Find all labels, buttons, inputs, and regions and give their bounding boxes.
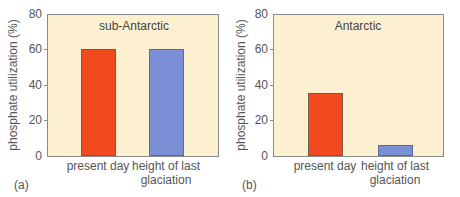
panel-letter: (a) [14, 178, 29, 192]
y-tick-label-40: 40 [246, 79, 268, 91]
chart-panel-a: phosphate utilization (%) 80 60 40 20 0 … [0, 0, 230, 197]
chart-title: Antarctic [298, 19, 418, 33]
panel-letter: (b) [242, 178, 257, 192]
plot-area: sub-Antarctic [47, 14, 219, 157]
plot-area: Antarctic [273, 14, 444, 157]
y-tick-label-20: 20 [20, 114, 42, 126]
x-category-label-line1: height of last [350, 159, 440, 173]
y-tick-label-20: 20 [246, 114, 268, 126]
y-tick-label-80: 80 [246, 8, 268, 20]
x-category-label-line1: height of last [121, 159, 211, 173]
bar-present-day [308, 93, 343, 156]
x-category-label-last-glaciation: height of last glaciation [121, 159, 211, 187]
y-tick-label-0: 0 [246, 150, 268, 162]
y-axis-label: phosphate utilization (%) [6, 15, 20, 155]
bar-present-day [81, 49, 116, 156]
y-tick-label-80: 80 [20, 8, 42, 20]
y-tick-label-0: 0 [20, 150, 42, 162]
x-category-label-last-glaciation: height of last glaciation [350, 159, 440, 187]
chart-panel-b: phosphate utilization (%) 80 60 40 20 0 … [230, 0, 460, 197]
x-category-label-line2: glaciation [121, 173, 211, 187]
bar-last-glaciation [378, 145, 413, 156]
x-category-label-line2: glaciation [350, 173, 440, 187]
y-tick-label-60: 60 [20, 43, 42, 55]
y-tick-label-40: 40 [20, 79, 42, 91]
chart-title: sub-Antarctic [74, 19, 194, 33]
bar-last-glaciation [149, 49, 184, 156]
y-tick-label-60: 60 [246, 43, 268, 55]
